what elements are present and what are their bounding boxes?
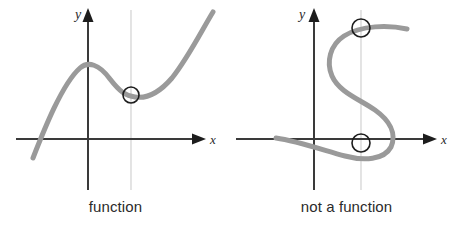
not-a-function-graph: y x bbox=[231, 0, 462, 196]
panel-function: y x function bbox=[0, 0, 231, 235]
y-axis-arrow-icon bbox=[83, 8, 94, 22]
x-axis-label: x bbox=[440, 132, 447, 147]
y-axis-label: y bbox=[73, 7, 82, 22]
vertical-line-test-figure: y x function y x bbox=[0, 0, 462, 235]
function-curve bbox=[33, 12, 213, 158]
x-axis-label: x bbox=[209, 132, 216, 147]
x-axis-arrow-icon bbox=[192, 134, 206, 145]
panel-not-a-function-caption: not a function bbox=[231, 198, 462, 215]
x-axis-arrow-icon bbox=[423, 134, 437, 145]
function-graph: y x bbox=[0, 0, 231, 196]
y-axis-arrow-icon bbox=[309, 8, 320, 22]
panel-not-a-function: y x not a function bbox=[231, 0, 462, 235]
y-axis-label: y bbox=[297, 7, 306, 22]
panel-function-caption: function bbox=[0, 198, 231, 215]
